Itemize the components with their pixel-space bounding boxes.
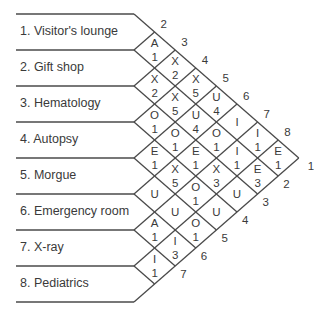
closeness-code: X xyxy=(143,73,167,85)
relationship-cell: I1 xyxy=(143,253,167,279)
department-label: 7. X-ray xyxy=(20,240,64,254)
reason-code: 3 xyxy=(163,249,187,261)
column-number: 5 xyxy=(222,72,228,84)
reason-code: 1 xyxy=(143,267,167,279)
relationship-cell: E3 xyxy=(246,163,270,189)
column-number: 5 xyxy=(221,232,227,244)
closeness-code: E xyxy=(184,145,208,157)
closeness-code: E xyxy=(266,145,290,157)
reason-code: 1 xyxy=(266,159,290,171)
column-number: 3 xyxy=(263,196,269,208)
relationship-cell: U xyxy=(225,188,249,200)
department-label: 8. Pediatrics xyxy=(20,276,89,290)
relationship-cell: U xyxy=(204,206,228,218)
closeness-code: A xyxy=(143,217,167,229)
closeness-code: U xyxy=(225,188,249,200)
closeness-code: U xyxy=(184,109,208,121)
column-number: 8 xyxy=(284,126,290,138)
department-label: 3. Hematology xyxy=(20,96,101,110)
column-number: 3 xyxy=(181,36,187,48)
closeness-code: X xyxy=(184,73,208,85)
closeness-code: X xyxy=(163,163,187,175)
relationship-cell: O1 xyxy=(184,217,208,243)
department-label: 2. Gift shop xyxy=(20,60,84,74)
closeness-code: U xyxy=(143,188,167,200)
column-number: 4 xyxy=(242,214,248,226)
column-number: 4 xyxy=(202,54,208,66)
closeness-code: O xyxy=(184,181,208,193)
relationship-cell: I3 xyxy=(163,235,187,261)
closeness-code: U xyxy=(204,206,228,218)
closeness-code: I xyxy=(225,145,249,157)
column-number: 7 xyxy=(264,108,270,120)
closeness-code: O xyxy=(143,109,167,121)
relationship-cell: E1 xyxy=(266,145,290,171)
reason-code: 3 xyxy=(246,177,270,189)
closeness-code: U xyxy=(204,91,228,103)
closeness-code: X xyxy=(163,91,187,103)
department-label: 6. Emergency room xyxy=(20,204,129,218)
closeness-code: O xyxy=(184,217,208,229)
closeness-code: X xyxy=(204,163,228,175)
column-number: 6 xyxy=(243,90,249,102)
closeness-code: E xyxy=(246,163,270,175)
relationship-cell: U xyxy=(143,188,167,200)
closeness-code: I xyxy=(246,127,270,139)
closeness-code: O xyxy=(163,127,187,139)
closeness-code: A xyxy=(143,37,167,49)
column-number: 2 xyxy=(283,178,289,190)
relationship-cell: X3 xyxy=(204,163,228,189)
column-number: 1 xyxy=(308,160,314,172)
relationship-cell: U4 xyxy=(204,91,228,117)
department-label: 5. Morgue xyxy=(20,168,76,182)
department-label: 1. Visitor's lounge xyxy=(20,24,118,38)
column-number: 7 xyxy=(180,268,186,280)
reason-code: 1 xyxy=(184,231,208,243)
closeness-code: O xyxy=(204,127,228,139)
closeness-code: X xyxy=(163,55,187,67)
relationship-cell: O1 xyxy=(184,181,208,207)
column-number: 6 xyxy=(201,250,207,262)
department-label: 4. Autopsy xyxy=(20,132,78,146)
closeness-code: I xyxy=(163,235,187,247)
closeness-code: E xyxy=(143,145,167,157)
closeness-code: I xyxy=(143,253,167,265)
column-number: 2 xyxy=(161,18,167,30)
